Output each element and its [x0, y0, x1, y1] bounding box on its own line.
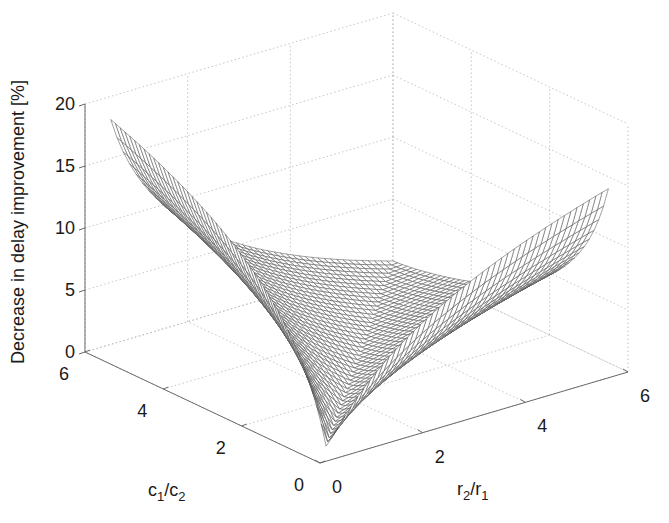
y-tick-label: 2 — [216, 438, 226, 458]
z-tick-label: 5 — [65, 280, 75, 300]
y-tick-label: 0 — [294, 475, 304, 495]
z-tick-label: 20 — [55, 94, 75, 114]
x-tick-label: 2 — [435, 447, 445, 467]
surface-plot: 0510152002460246 Decrease in delay impro… — [0, 0, 669, 523]
z-tick-label: 10 — [55, 218, 75, 238]
x-tick-label: 6 — [640, 386, 650, 406]
y-axis-label: c1/c2 — [148, 480, 185, 504]
z-axis-label: Decrease in delay improvement [%] — [8, 80, 28, 364]
y-tick-label: 4 — [137, 401, 147, 421]
z-tick-label: 0 — [65, 342, 75, 362]
x-tick-label: 0 — [332, 477, 342, 497]
x-tick-label: 4 — [537, 416, 547, 436]
surface-mesh — [111, 120, 609, 447]
z-tick-label: 15 — [55, 156, 75, 176]
x-axis-label: r2/r1 — [457, 479, 488, 503]
y-tick-label: 6 — [59, 364, 69, 384]
